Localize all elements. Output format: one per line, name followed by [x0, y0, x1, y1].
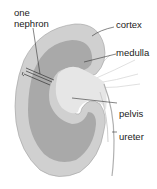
label-pelvis: pelvis — [119, 109, 143, 119]
label-one: one — [14, 8, 30, 18]
label-ureter: ureter — [119, 132, 144, 142]
label-nephron: nephron — [14, 19, 49, 29]
label-medulla: medulla — [116, 48, 149, 58]
label-cortex: cortex — [116, 20, 142, 30]
